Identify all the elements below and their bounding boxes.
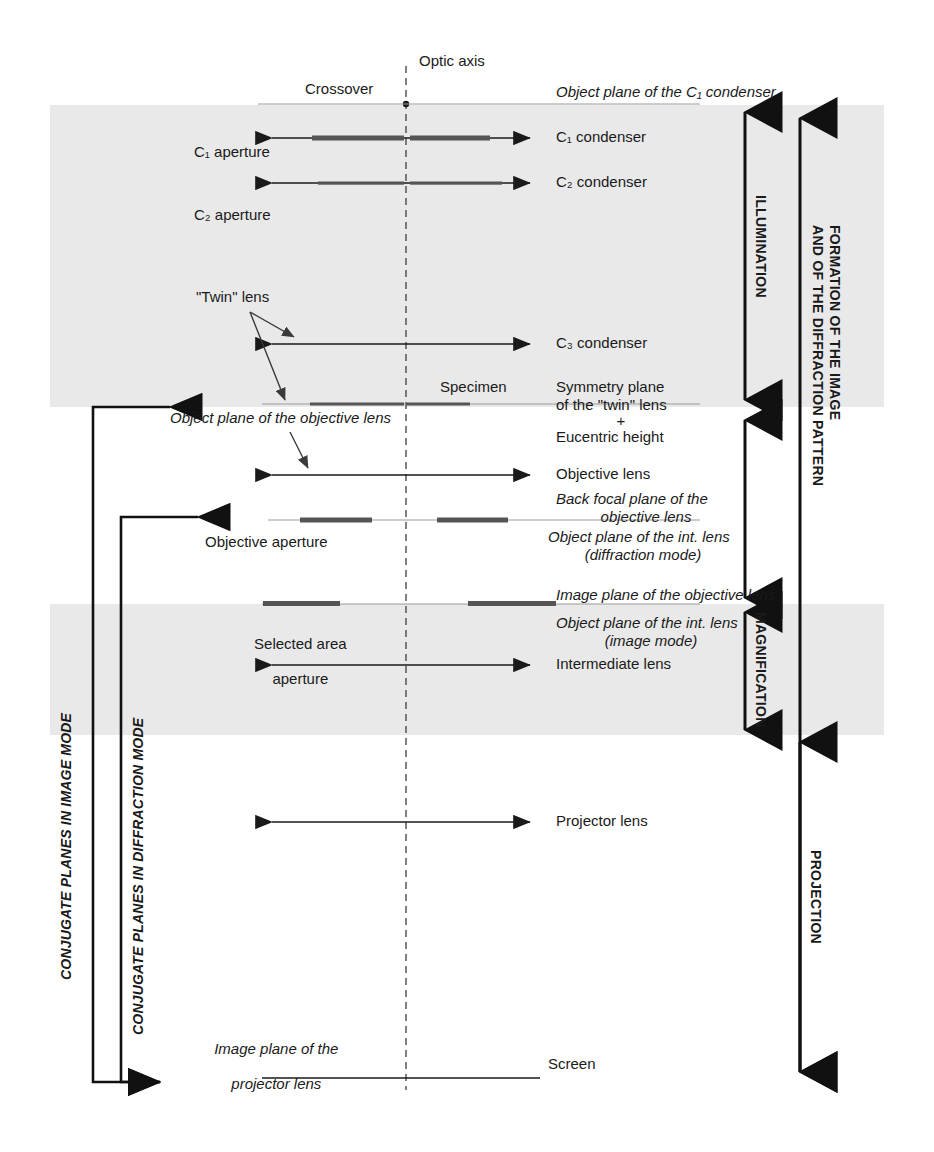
image-plane-projector-line1: Image plane of the — [214, 1040, 338, 1057]
label-image-plane-objective: Image plane of the objective lens — [556, 586, 775, 604]
label-objplane-int-lens-image-1: Object plane of the int. lens — [556, 614, 738, 632]
label-intermediate-lens: Intermediate lens — [556, 655, 671, 673]
specimen-bar-right — [406, 403, 470, 406]
label-back-focal-plane-1: Back focal plane of the — [556, 490, 708, 508]
optic-axis-label: Optic axis — [419, 52, 485, 70]
label-c1-aperture: C₁ aperture — [194, 143, 270, 161]
label-object-plane-objective: Object plane of the objective lens — [170, 409, 391, 427]
label-eucentric-height: Eucentric height — [556, 428, 664, 446]
label-specimen: Specimen — [440, 378, 507, 396]
leader-twin-lens-to-c3 — [250, 312, 294, 337]
label-selected-area-aperture: Selected area aperture — [232, 617, 352, 705]
conjugate-label-image-mode: CONJUGATE PLANES IN IMAGE MODE — [58, 713, 74, 980]
leader-objplane-to-objective — [290, 432, 308, 468]
label-projector-lens: Projector lens — [556, 812, 648, 830]
crossover-label: Crossover — [305, 80, 373, 98]
selected-area-line1: Selected area — [254, 635, 347, 652]
label-objective-aperture: Objective aperture — [205, 533, 328, 551]
label-back-focal-plane-2: objective lens — [556, 508, 736, 526]
label-c3-condenser: C₃ condenser — [556, 334, 647, 352]
aperture-bar-c2-right — [410, 182, 502, 185]
aperture-bar-selected-area-right — [468, 601, 556, 606]
tem-ray-diagram: Optic axis Crossover Object plane of the… — [0, 0, 934, 1152]
label-c2-aperture: C₂ aperture — [194, 206, 271, 224]
conjugate-label-diffraction-mode: CONJUGATE PLANES IN DIFFRACTION MODE — [130, 718, 146, 1035]
label-objplane-int-lens-diffraction-2: (diffraction mode) — [548, 546, 738, 564]
section-label-magnification: MAGNIFICATION — [753, 612, 769, 728]
label-symmetry-plane-1: Symmetry plane — [556, 378, 664, 396]
label-object-plane-c1: Object plane of the C₁ condenser — [556, 83, 776, 101]
image-plane-projector-line2: projector lens — [231, 1075, 321, 1092]
aperture-bar-selected-area-left — [263, 601, 340, 606]
label-c1-condenser: C₁ condenser — [556, 128, 646, 146]
aperture-bar-c1-right — [410, 136, 490, 141]
aperture-bar-c2-left — [318, 182, 404, 185]
label-objective-lens: Objective lens — [556, 465, 650, 483]
specimen-bar-left — [310, 403, 404, 406]
label-objplane-int-lens-diffraction-1: Object plane of the int. lens — [548, 528, 730, 546]
label-twin-lens: "Twin" lens — [196, 288, 269, 306]
label-screen: Screen — [548, 1055, 596, 1073]
section-label-formation: FORMATION OF THE IMAGE AND OF THE DIFFRA… — [808, 225, 843, 486]
label-image-plane-projector: Image plane of the projector lens — [178, 1022, 358, 1110]
label-objplane-int-lens-image-2: (image mode) — [556, 632, 746, 650]
aperture-bar-objective-left — [300, 518, 372, 523]
selected-area-line2: aperture — [272, 670, 328, 687]
formation-text: FORMATION OF THE IMAGE AND OF THE DIFFRA… — [810, 225, 844, 486]
section-label-projection: PROJECTION — [808, 850, 824, 944]
aperture-bar-c1-left — [312, 136, 404, 141]
section-label-illumination: ILLUMINATION — [753, 195, 769, 298]
aperture-bar-objective-right — [437, 518, 508, 523]
leader-twin-lens-to-specimen — [250, 312, 285, 400]
label-c2-condenser: C₂ condenser — [556, 173, 647, 191]
